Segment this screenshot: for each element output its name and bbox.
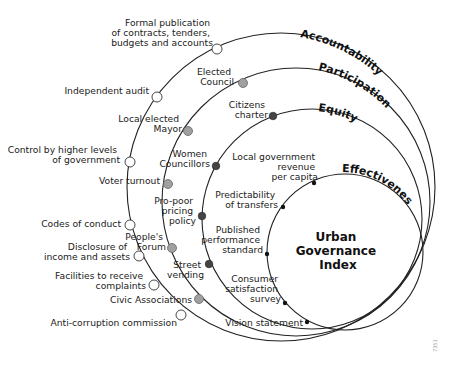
center-title: Urban Governance Index — [296, 230, 381, 272]
label-pro-poor-pricing: Pro-poor pricing policy — [154, 195, 196, 226]
dot-vision-statement — [305, 320, 309, 324]
dot-facilities-complaints — [149, 280, 159, 290]
dot-codes-of-conduct — [125, 220, 135, 230]
label-disclosure: Disclosure of income and assets — [44, 241, 130, 262]
label-facilities-complaints: Facilities to receive complaints — [55, 270, 146, 291]
equity-ring — [202, 109, 422, 329]
dot-independent-audit — [152, 92, 162, 102]
label-consumer-survey: Consumer satisfaction survey — [225, 273, 281, 304]
dot-local-elected-mayor — [184, 127, 193, 136]
dot-disclosure — [134, 251, 144, 261]
dot-consumer-survey — [283, 301, 287, 305]
label-lg-revenue: Local government revenue per capita — [232, 151, 318, 182]
figure-id: 7351 — [432, 339, 438, 352]
ring-title-equity: Equity — [318, 101, 360, 125]
dot-citizens-charter — [269, 112, 277, 120]
label-predictability: Predictability of transfers — [215, 189, 278, 210]
label-independent-audit: Independent audit — [64, 85, 149, 96]
label-elected-council: Elected Council — [197, 66, 234, 87]
dot-peoples-forum — [168, 244, 177, 253]
dot-pro-poor-pricing — [198, 212, 206, 220]
dot-predictability — [281, 205, 285, 209]
label-formal-publication: Formal publication of contracts, tenders… — [111, 17, 213, 48]
label-peoples-forum: People's Forum — [125, 231, 166, 252]
label-anti-corruption: Anti-corruption commission — [50, 317, 177, 328]
label-women-councillors: Women Councillors — [159, 148, 210, 169]
label-street-vending: Street vending — [167, 259, 204, 280]
dot-street-vending — [205, 260, 213, 268]
label-civic-associations: Civic Associations — [110, 294, 192, 305]
label-vision-statement: Vision statement — [225, 317, 303, 328]
dot-women-councillors — [212, 162, 220, 170]
urban-governance-diagram: Accountability Participation Equity Effe… — [0, 0, 454, 369]
dot-voter-turnout — [164, 180, 173, 189]
dot-anti-corruption — [176, 310, 186, 320]
label-published-standard: Published performance standard — [201, 224, 263, 255]
label-local-elected-mayor: Local elected Mayor — [118, 113, 182, 134]
label-citizens-charter: Citizens charter — [229, 99, 268, 120]
label-codes-of-conduct: Codes of conduct — [41, 218, 121, 229]
dot-elected-council — [239, 79, 248, 88]
dot-published-standard — [265, 252, 269, 256]
dot-civic-associations — [195, 295, 204, 304]
dot-formal-publication — [212, 44, 222, 54]
dot-control-higher-levels — [125, 157, 135, 167]
label-voter-turnout: Voter turnout — [99, 175, 160, 186]
label-control-higher-levels: Control by higher levels of government — [8, 144, 121, 165]
